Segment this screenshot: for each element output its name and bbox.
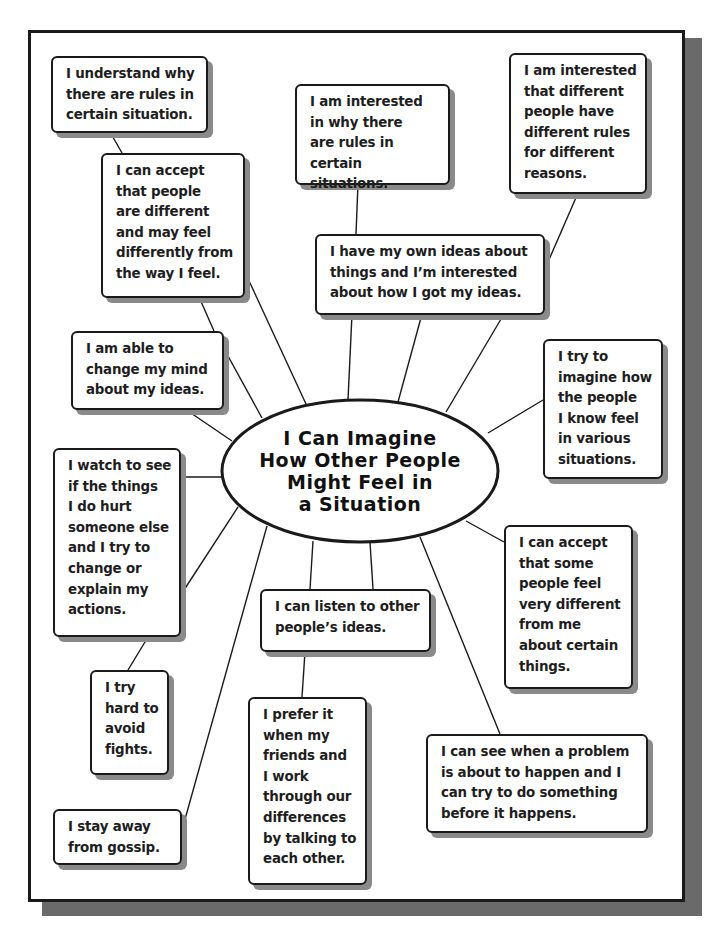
idea-box-prefer-talking: I prefer it when my friends and I work t… xyxy=(248,697,367,885)
idea-box-change-mind: I am able to change my mind about my ide… xyxy=(71,331,224,410)
connector-line xyxy=(244,270,306,404)
idea-box-interested-why-rules: I am interested in why there are rules i… xyxy=(295,84,450,185)
idea-box-accept-some-people: I can accept that some people feel very … xyxy=(504,525,633,689)
connector-line xyxy=(302,652,305,697)
idea-box-imagine-how-people-feel: I try to imagine how the people I know f… xyxy=(543,339,663,479)
connector-line xyxy=(446,314,504,412)
idea-box-watch-hurt: I watch to see if the things I do hurt s… xyxy=(53,448,181,637)
idea-box-understand-rules: I understand why there are rules in cert… xyxy=(51,56,208,133)
idea-box-see-problem: I can see when a problem is about to hap… xyxy=(426,734,648,833)
idea-box-interested-different-rules: I am interested that different people ha… xyxy=(509,53,647,194)
idea-box-stay-away-gossip: I stay away from gossip. xyxy=(53,809,182,865)
idea-box-accept-people-different: I can accept that people are different a… xyxy=(101,153,245,298)
connector-line xyxy=(398,314,422,402)
connector-line xyxy=(310,541,313,589)
connector-line xyxy=(348,314,352,400)
idea-box-listen-ideas: I can listen to other people’s ideas. xyxy=(260,589,431,652)
idea-box-own-ideas: I have my own ideas about things and I’m… xyxy=(315,234,545,315)
idea-box-avoid-fights: I try hard to avoid fights. xyxy=(90,670,169,775)
connector-line xyxy=(370,542,373,589)
connector-line xyxy=(548,193,578,262)
central-topic-title: I Can Imagine How Other People Might Fee… xyxy=(222,400,498,542)
